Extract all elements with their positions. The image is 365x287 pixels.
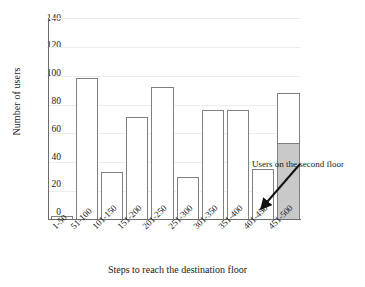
x-tick-cell: 1-50 <box>49 222 74 266</box>
bar-cell <box>49 18 74 219</box>
bar-series <box>49 18 301 219</box>
bar[interactable] <box>151 87 173 219</box>
bar-cell <box>251 18 276 219</box>
bar-cell <box>99 18 124 219</box>
bar-cell <box>225 18 250 219</box>
bar-cell <box>175 18 200 219</box>
bar[interactable] <box>76 78 98 219</box>
x-axis-tick-labels: 1-5051-100101-150151-200201-250251-30030… <box>49 222 301 266</box>
bar-cell <box>125 18 150 219</box>
x-tick-cell: 451-500 <box>276 222 301 266</box>
bar-cell <box>200 18 225 219</box>
bar-chart: Number of users 140 120 100 80 60 40 20 … <box>0 0 365 287</box>
bar-cell <box>276 18 301 219</box>
bar[interactable] <box>277 93 299 219</box>
bar-cell <box>150 18 175 219</box>
bar-cell <box>74 18 99 219</box>
x-axis-title: Steps to reach the destination floor <box>45 264 310 275</box>
plot-area <box>48 18 301 220</box>
y-axis-title: Number of users <box>11 42 22 162</box>
annotation-label: Users on the second floor <box>252 159 344 169</box>
